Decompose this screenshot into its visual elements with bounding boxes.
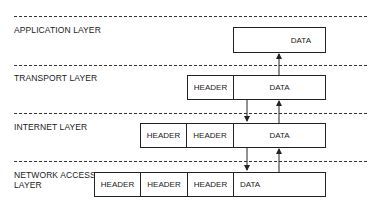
flow-arrows [0,0,383,208]
